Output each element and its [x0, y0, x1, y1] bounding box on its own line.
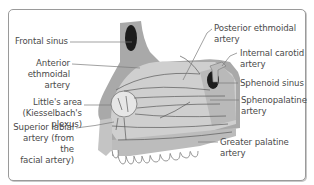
label-frontal-sinus: Frontal sinus: [8, 36, 68, 47]
label-posterior-ethmoidal-artery: Posterior ethmoidal artery: [214, 23, 296, 45]
frontal-sinus-shape: [125, 25, 137, 51]
label-sphenoid-sinus: Sphenoid sinus: [240, 78, 304, 89]
label-superior-labial-artery: Superior labial artery (from the facial …: [8, 122, 74, 166]
littles-area-shape: [111, 91, 137, 117]
label-internal-carotid-artery: Internal carotid artery: [240, 48, 304, 70]
label-anterior-ethmoidal-artery: Anterior ethmoidal artery: [8, 58, 70, 91]
label-greater-palatine-artery: Greater palatine artery: [220, 137, 289, 159]
label-sphenopalatine-artery: Sphenopalatine artery: [241, 95, 307, 117]
